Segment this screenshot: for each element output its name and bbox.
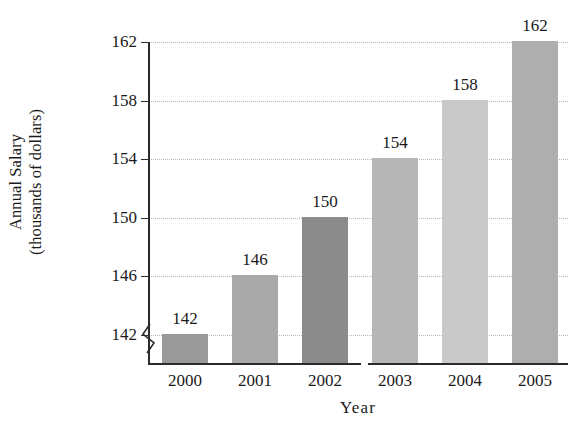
x-axis-tick-label: 2005 [518, 371, 552, 391]
gridline [148, 335, 568, 336]
bar: 142 [162, 334, 208, 363]
bar-value-label: 154 [382, 133, 408, 153]
y-axis-tick [141, 101, 148, 102]
bar-chart-figure: Annual Salary (thousands of dollars) 142… [0, 0, 586, 439]
y-axis-tick-label: 146 [112, 266, 138, 286]
y-axis-tick [141, 335, 148, 336]
gridline [148, 101, 568, 102]
y-axis-tick [141, 42, 148, 43]
bar: 158 [442, 100, 488, 363]
y-axis-tick-label: 142 [112, 324, 138, 344]
y-axis-tick [141, 159, 148, 160]
y-axis-tick-label: 162 [112, 32, 138, 52]
gridline [148, 276, 568, 277]
x-axis-tick-label: 2004 [448, 371, 482, 391]
bar: 150 [302, 217, 348, 363]
x-axis-tick-label: 2003 [378, 371, 412, 391]
gridline [148, 42, 568, 43]
bar-value-label: 150 [312, 192, 338, 212]
y-axis-tick [141, 276, 148, 277]
bar: 146 [232, 275, 278, 363]
y-axis-title: Annual Salary (thousands of dollars) [6, 72, 66, 292]
bar-value-label: 142 [172, 309, 198, 329]
x-axis-line-left [148, 363, 361, 365]
y-axis-tick-label: 158 [112, 90, 138, 110]
bar-value-label: 158 [452, 75, 478, 95]
y-axis-line [148, 42, 150, 364]
y-axis-tick [141, 218, 148, 219]
bar-value-label: 162 [522, 16, 548, 36]
y-axis-title-line-1: Annual Salary [6, 72, 26, 292]
gridline [148, 218, 568, 219]
axis-break-icon [139, 322, 159, 356]
y-axis-tick-label: 150 [112, 207, 138, 227]
plot-area: 142146150154158162 142146150154158162 20… [148, 42, 568, 364]
x-axis-tick-label: 2001 [238, 371, 272, 391]
gridline [148, 159, 568, 160]
bar: 162 [512, 41, 558, 363]
x-axis-tick-label: 2000 [168, 371, 202, 391]
x-axis-line-right [368, 363, 568, 365]
bar-value-label: 146 [242, 250, 268, 270]
y-axis-tick-label: 154 [112, 149, 138, 169]
x-axis-tick-label: 2002 [308, 371, 342, 391]
bar: 154 [372, 158, 418, 363]
x-axis-title: Year [148, 398, 568, 418]
y-axis-title-line-2: (thousands of dollars) [26, 72, 46, 292]
